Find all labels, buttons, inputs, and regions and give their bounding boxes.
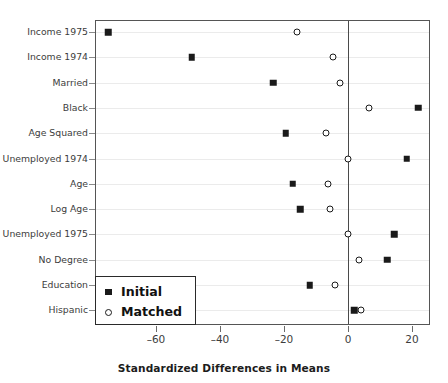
y-axis-tick [89, 209, 95, 210]
data-point-initial [283, 130, 290, 137]
x-axis-tick [348, 326, 349, 332]
gridline [96, 184, 429, 185]
data-point-matched [345, 231, 352, 238]
y-axis-labels: Income 1975Income 1974MarriedBlackAge Sq… [0, 0, 88, 383]
data-point-initial [105, 29, 112, 36]
y-axis-label: Unemployed 1975 [3, 230, 88, 239]
legend-item-initial: Initial [105, 282, 195, 302]
data-point-initial [297, 206, 304, 213]
data-point-initial [290, 181, 297, 188]
gridline [96, 57, 429, 58]
data-point-initial [404, 155, 411, 162]
y-axis-label: Log Age [50, 204, 88, 213]
data-point-initial [391, 231, 398, 238]
covariate-balance-chart: Income 1975Income 1974MarriedBlackAge Sq… [0, 0, 448, 383]
data-point-initial [351, 307, 358, 314]
y-axis-tick [89, 57, 95, 58]
y-axis-tick [89, 83, 95, 84]
y-axis-tick [89, 133, 95, 134]
y-axis-tick [89, 108, 95, 109]
gridline [96, 260, 429, 261]
data-point-matched [327, 206, 334, 213]
data-point-initial [189, 54, 196, 61]
data-point-matched [355, 256, 362, 263]
gridline [96, 83, 429, 84]
y-axis-tick [89, 234, 95, 235]
x-axis-tick [220, 326, 221, 332]
data-point-matched [345, 155, 352, 162]
data-point-matched [293, 29, 300, 36]
chart-legend: Initial Matched [95, 276, 196, 325]
gridline [96, 209, 429, 210]
gridline [96, 234, 429, 235]
x-axis-tick-label: 0 [345, 333, 352, 345]
x-axis-tick-label: –60 [147, 333, 166, 345]
data-point-initial [307, 282, 314, 289]
legend-label-matched: Matched [121, 306, 182, 319]
zero-reference-line [348, 21, 349, 324]
legend-item-matched: Matched [105, 302, 195, 322]
y-axis-label: Hispanic [48, 306, 88, 315]
open-circle-icon [105, 309, 121, 316]
data-point-matched [366, 104, 373, 111]
gridline [96, 32, 429, 33]
y-axis-label: Black [63, 103, 88, 112]
x-axis-tick-label: –40 [211, 333, 230, 345]
y-axis-tick [89, 159, 95, 160]
data-point-matched [358, 307, 365, 314]
y-axis-label: Income 1975 [27, 27, 88, 36]
data-point-matched [325, 180, 332, 187]
data-point-matched [337, 79, 344, 86]
x-axis-tick [412, 326, 413, 332]
x-axis-tick-label: –20 [275, 333, 294, 345]
y-axis-label: Education [42, 280, 88, 289]
data-point-initial [384, 256, 391, 263]
y-axis-label: Income 1974 [27, 53, 88, 62]
x-axis-title: Standardized Differences in Means [0, 362, 448, 374]
y-axis-label: Married [53, 78, 88, 87]
gridline [96, 133, 429, 134]
data-point-matched [331, 282, 338, 289]
data-point-matched [329, 54, 336, 61]
y-axis-tick [89, 260, 95, 261]
x-axis-tick-label: 20 [405, 333, 418, 345]
y-axis-label: Unemployed 1974 [3, 154, 88, 163]
data-point-initial [415, 105, 422, 112]
x-axis-tick [284, 326, 285, 332]
x-axis-tick [156, 326, 157, 332]
data-point-matched [322, 130, 329, 137]
y-axis-label: Age [70, 179, 88, 188]
legend-label-initial: Initial [121, 286, 162, 299]
gridline [96, 108, 429, 109]
y-axis-label: Age Squared [28, 129, 88, 138]
data-point-initial [270, 79, 277, 86]
y-axis-tick [89, 184, 95, 185]
y-axis-label: No Degree [39, 255, 88, 264]
filled-square-icon [105, 289, 121, 296]
y-axis-tick [89, 32, 95, 33]
gridline [96, 159, 429, 160]
